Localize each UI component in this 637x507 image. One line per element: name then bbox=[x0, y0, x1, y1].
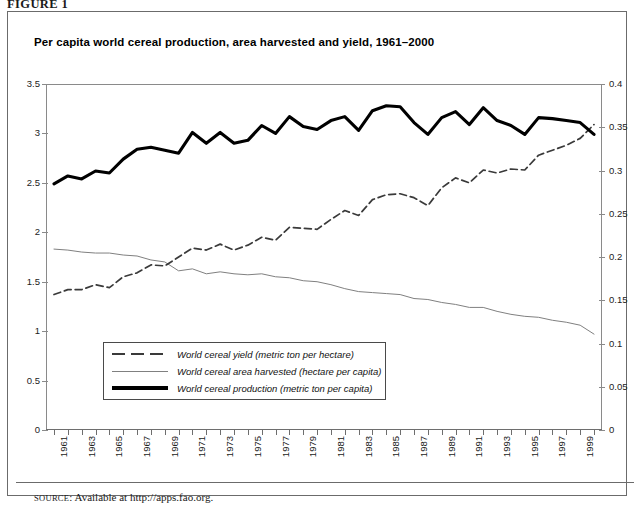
x-axis-label: 1975 bbox=[252, 436, 263, 457]
legend-item-area-harvested: World cereal area harvested (hectare per… bbox=[112, 363, 381, 379]
y-axis-right-label: 0.25 bbox=[609, 209, 637, 219]
y-axis-left-label: 3.5 bbox=[8, 79, 40, 89]
x-axis-label: 1987 bbox=[418, 436, 429, 457]
x-axis-label: 1985 bbox=[390, 436, 401, 457]
figure-panel: Per capita world cereal production, area… bbox=[7, 11, 627, 496]
figure-label-text: FIGURE 1 bbox=[7, 0, 68, 11]
legend-swatch-thick-line-icon bbox=[112, 382, 168, 394]
y-axis-right-label: 0 bbox=[609, 425, 637, 435]
y-axis-left-label: 1 bbox=[8, 326, 40, 336]
x-axis-label: 1973 bbox=[224, 436, 235, 457]
x-axis-label: 1961 bbox=[58, 436, 69, 457]
x-axis-label: 1977 bbox=[280, 436, 291, 457]
y-axis-left-label: 2.5 bbox=[8, 178, 40, 188]
y-axis-right-label: 0.1 bbox=[609, 339, 637, 349]
y-axis-left-label: 0.5 bbox=[8, 376, 40, 386]
y-tick-left bbox=[42, 430, 48, 431]
source-note: SOURCE: Available at http://apps.fao.org… bbox=[34, 491, 213, 503]
legend-label-area-harvested: World cereal area harvested (hectare per… bbox=[177, 366, 381, 377]
y-axis-right-label: 0.4 bbox=[609, 79, 637, 89]
legend-swatch-dashed-icon bbox=[112, 348, 168, 360]
legend-swatch-thin-line-icon bbox=[112, 365, 168, 377]
x-axis-label: 1979 bbox=[307, 436, 318, 457]
legend-item-production: World cereal production (metric ton per … bbox=[112, 380, 372, 396]
x-axis-label: 1989 bbox=[446, 436, 457, 457]
plot-area: 00.511.522.533.5 00.050.10.150.20.250.30… bbox=[46, 84, 602, 430]
y-axis-right-label: 0.05 bbox=[609, 382, 637, 392]
y-axis-left-label: 3 bbox=[8, 128, 40, 138]
figure-root: FIGURE 1 Per capita world cereal product… bbox=[0, 0, 637, 507]
x-axis-label: 1993 bbox=[501, 436, 512, 457]
x-axis-label: 1995 bbox=[529, 436, 540, 457]
source-divider bbox=[16, 482, 634, 483]
y-axis-left-label: 0 bbox=[8, 425, 40, 435]
legend-item-yield: World cereal yield (metric ton per hecta… bbox=[112, 346, 354, 362]
x-axis-label: 1981 bbox=[335, 436, 346, 457]
series-line-thick-solid bbox=[54, 106, 594, 184]
legend-label-production: World cereal production (metric ton per … bbox=[177, 383, 372, 394]
y-axis-right-label: 0.15 bbox=[609, 295, 637, 305]
x-axis-label: 1991 bbox=[473, 436, 484, 457]
x-axis-label: 1999 bbox=[584, 436, 595, 457]
y-axis-right-label: 0.3 bbox=[609, 166, 637, 176]
y-axis-left-label: 1.5 bbox=[8, 277, 40, 287]
x-axis-label: 1965 bbox=[113, 436, 124, 457]
chart-title: Per capita world cereal production, area… bbox=[34, 36, 434, 48]
x-axis-label: 1971 bbox=[196, 436, 207, 457]
source-prefix: SOURCE bbox=[34, 493, 69, 503]
x-axis-label: 1967 bbox=[141, 436, 152, 457]
y-axis-left-label: 2 bbox=[8, 227, 40, 237]
x-axis-label: 1983 bbox=[363, 436, 374, 457]
x-axis-label: 1963 bbox=[86, 436, 97, 457]
legend-label-yield: World cereal yield (metric ton per hecta… bbox=[177, 349, 354, 360]
source-text: : Available at http://apps.fao.org. bbox=[69, 491, 213, 503]
chart-legend: World cereal yield (metric ton per hecta… bbox=[103, 342, 386, 400]
x-axis-label: 1997 bbox=[556, 436, 567, 457]
series-line-thin-solid bbox=[54, 249, 594, 334]
x-axis-label: 1969 bbox=[169, 436, 180, 457]
y-axis-right-label: 0.35 bbox=[609, 122, 637, 132]
y-axis-right-label: 0.2 bbox=[609, 252, 637, 262]
y-tick-right bbox=[599, 430, 605, 431]
